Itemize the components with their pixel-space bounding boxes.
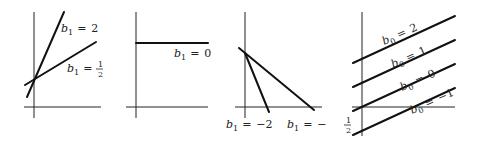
- label-b1-neg2: b1=−2: [226, 118, 273, 133]
- panel-4: b0=2 b0=1 b0=0 b0=−1: [352, 12, 457, 136]
- label-b0-1: b0=1: [389, 44, 429, 73]
- line-slope-2: [27, 12, 64, 97]
- line-slope-neg-half: [239, 48, 314, 110]
- label-b0-0: b0=0: [398, 67, 438, 96]
- label-b1-2: b1=2: [61, 22, 98, 37]
- frac-den: 2: [346, 126, 351, 135]
- label-b0-neg1: b0=−1: [408, 86, 457, 119]
- panel-2: b1=0: [126, 12, 211, 118]
- line-b0-2: [353, 16, 455, 63]
- frac-num: 1: [98, 60, 103, 69]
- frac-num: 1: [346, 116, 351, 125]
- regression-lines-diagram: b1=2 b1= 1 2 b1=0 b1=−2 b1=− 1 2 b0=2 b0…: [0, 0, 478, 142]
- label-b1-half: b1=: [67, 62, 92, 77]
- panel-3: b1=−2 b1=− 1 2: [226, 12, 351, 135]
- panel-1: b1=2 b1= 1 2: [24, 12, 103, 118]
- label-b1-neg-half: b1=−: [287, 118, 327, 133]
- frac-den: 2: [98, 70, 103, 79]
- label-b1-0: b1=0: [174, 47, 211, 62]
